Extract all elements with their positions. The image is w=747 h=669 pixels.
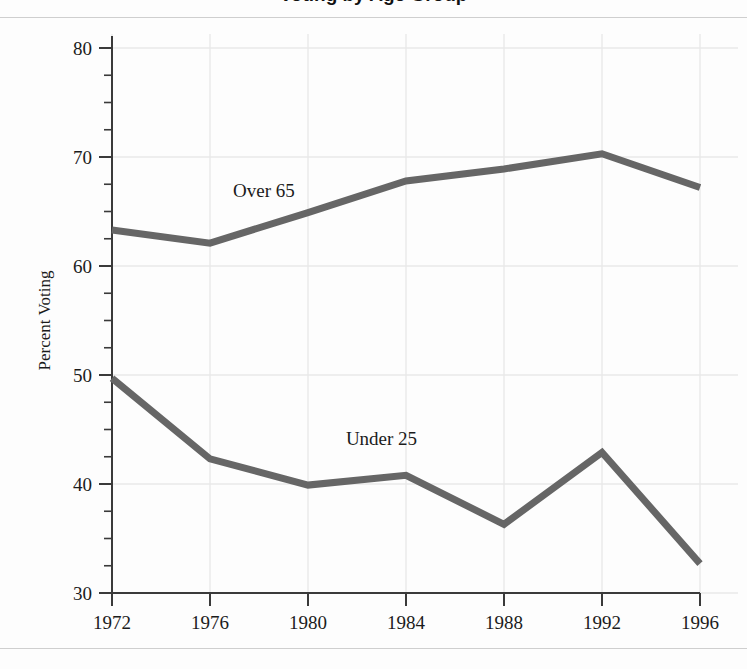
x-axis-tick-label: 1984 — [387, 612, 426, 633]
chart-title-cropped: Voting by Age Group — [0, 0, 747, 16]
x-axis-tick-label: 1976 — [191, 612, 229, 633]
chart-title-text: Voting by Age Group — [0, 0, 747, 4]
x-axis-tick-label: 1980 — [289, 612, 327, 633]
series-label-over-65: Over 65 — [233, 180, 295, 201]
y-axis-tick-label: 80 — [73, 38, 92, 59]
y-axis-tick-label: 70 — [73, 147, 92, 168]
y-axis-tick-label: 40 — [73, 474, 92, 495]
y-axis-tick-label: 50 — [73, 365, 92, 386]
line-chart: 3040506070801972197619801984198819921996… — [0, 18, 747, 648]
y-axis-tick-label: 60 — [73, 256, 92, 277]
x-axis-tick-label: 1972 — [93, 612, 131, 633]
x-axis-tick-label: 1988 — [485, 612, 523, 633]
series-label-under-25: Under 25 — [346, 428, 417, 449]
figure-page: Voting by Age Group 30405060708019721976… — [0, 0, 747, 669]
horizontal-rule-bottom — [0, 648, 747, 649]
y-axis-tick-label: 30 — [73, 583, 92, 604]
y-axis-title: Percent Voting — [35, 270, 54, 370]
chart-figure: 3040506070801972197619801984198819921996… — [0, 18, 747, 648]
x-axis-tick-label: 1996 — [681, 612, 719, 633]
x-axis-tick-label: 1992 — [583, 612, 621, 633]
